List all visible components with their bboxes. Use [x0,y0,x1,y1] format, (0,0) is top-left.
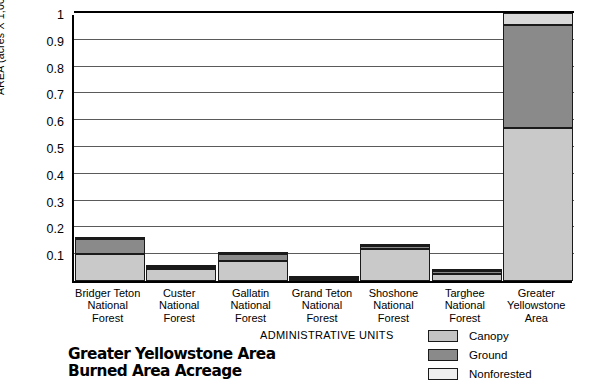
bar-segment-canopy [503,13,573,25]
bar [218,13,288,281]
x-axis-tick-label: Bridger Teton National Forest [72,287,143,324]
bar-segment-nonforested [503,128,573,281]
bar-segment-nonforested [146,269,216,281]
y-axis-tick-label: 0.3 [0,197,64,210]
x-axis-tick-label: Greater Yellowstone Area [501,287,572,324]
y-axis-tick-label: 0.2 [0,223,64,236]
bar [146,13,216,281]
bar-segment-canopy [432,269,502,271]
legend-label: Canopy [469,330,509,342]
y-axis-tick-label: 0.1 [0,250,64,263]
bar-segment-ground [75,239,145,254]
bar-segment-canopy [218,252,288,254]
x-axis-tick-label: Targhee National Forest [429,287,500,324]
bar-segment-nonforested [360,249,430,281]
y-axis-title: AREA (acres X 1,000,000) [0,0,6,95]
bar-segment-nonforested [432,274,502,281]
x-axis-tick-label: Custer National Forest [143,287,214,324]
legend: CanopyGroundNonforested [428,327,532,384]
legend-swatch [428,368,458,380]
bar-segment-canopy [289,276,359,278]
bar [289,13,359,281]
legend-label: Nonforested [469,368,532,380]
bar-segment-ground [360,246,430,250]
x-axis-tick-label: Gallatin National Forest [215,287,286,324]
legend-item: Nonforested [428,365,532,382]
bar-segment-nonforested [289,279,359,281]
legend-item: Canopy [428,327,532,344]
y-axis-tick-label: 0.7 [0,89,64,102]
bar-chart: 0.10.20.30.40.50.60.70.80.91 AREA (acres… [0,0,592,391]
bar-segment-canopy [75,237,145,240]
legend-label: Ground [469,349,507,361]
legend-swatch [428,349,458,361]
bar-segment-ground [503,25,573,128]
chart-title: Greater Yellowstone AreaBurned Area Acre… [68,345,275,379]
y-axis-tick-label: 1 [0,9,64,22]
bar-segment-nonforested [75,254,145,281]
legend-swatch [428,330,458,342]
bar [75,13,145,281]
y-axis-tick-label: 0.6 [0,116,64,129]
x-axis-tick-label: Grand Teton National Forest [286,287,357,324]
bar-segment-nonforested [218,261,288,281]
x-axis-title: ADMINISTRATIVE UNITS [260,329,394,341]
y-axis-tick-label: 0.8 [0,63,64,76]
x-axis-tick-label: Shoshone National Forest [358,287,429,324]
y-axis-tick-label: 0.9 [0,36,64,49]
bar-segment-canopy [146,265,216,267]
y-axis-tick-label: 0.4 [0,170,64,183]
bar-segment-canopy [360,244,430,246]
bar [360,13,430,281]
plot-area [72,15,572,283]
bar [432,13,502,281]
bar-segment-ground [432,271,502,274]
y-axis-tick-label: 0.5 [0,143,64,156]
chart-title-line-2: Burned Area Acreage [68,361,241,380]
legend-item: Ground [428,346,532,363]
bar-segment-ground [218,254,288,260]
bar [503,13,573,281]
